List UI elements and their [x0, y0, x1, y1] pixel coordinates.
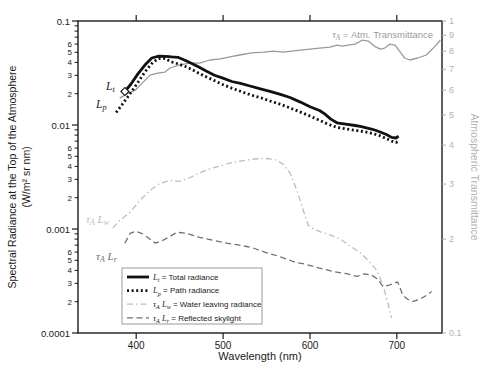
y-right-tick-label: 1 — [449, 16, 454, 26]
y-right-tick-label: 0.1 — [449, 328, 462, 338]
curve-path-radiance — [116, 59, 398, 143]
y-right-axis-title: Atmospheric Transmittance — [469, 113, 481, 240]
y-left-decade-label: 0.01 — [52, 120, 71, 131]
y-left-axis-title: Spectral Radiance at the Top of the Atmo… — [6, 65, 18, 288]
y-left-minor-label: 3 — [68, 71, 73, 80]
y-left-decade-label: 0.001 — [46, 224, 70, 235]
x-tick-label: 400 — [128, 340, 145, 351]
y-left-minor-label: 2 — [68, 90, 73, 99]
y-right-tick-label: 9 — [449, 30, 454, 40]
label-water-leaving: τA Lw — [86, 213, 110, 227]
y-left-decade-label: 0.1 — [57, 16, 70, 27]
y-left-axis-units: (W/m² sr nm) — [20, 146, 32, 207]
y-right-tick-label: 8 — [449, 46, 454, 56]
y-right-tick-label: 5 — [449, 110, 454, 120]
y-right-tick-label: 3 — [449, 179, 454, 189]
spectral-radiance-figure: 4005006007000.1654320.01654320.001654320… — [0, 0, 491, 380]
y-right-tick-label: 4 — [449, 140, 454, 150]
legend-label-reflected-skylight: τA Lr = Reflected skylight — [153, 313, 242, 324]
y-left-minor-label: 4 — [68, 162, 73, 171]
y-left-minor-label: 4 — [68, 266, 73, 275]
y-left-minor-label: 3 — [68, 175, 73, 184]
legend-label-total-radiance: Lt = Total radiance — [152, 272, 219, 283]
label-path-radiance: Lp — [95, 98, 107, 112]
y-left-minor-label: 3 — [68, 279, 73, 288]
label-total-radiance: Lt — [105, 80, 115, 94]
x-axis-title: Wavelength (nm) — [218, 350, 301, 362]
tau-annotation: τA = Atm. Transmittance — [332, 29, 433, 42]
label-reflected-skylight: τA Lr — [96, 250, 118, 264]
chart-canvas: 4005006007000.1654320.01654320.001654320… — [0, 0, 491, 380]
y-right-tick-label: 6 — [449, 85, 454, 95]
x-tick-label: 700 — [388, 340, 405, 351]
y-right-tick-label: 2 — [449, 234, 454, 244]
y-left-minor-label: 5 — [68, 256, 73, 265]
y-left-decade-label: 0.0001 — [41, 328, 70, 339]
y-left-minor-label: 4 — [68, 58, 73, 67]
y-right-tick-label: 7 — [449, 64, 454, 74]
y-left-minor-label: 2 — [68, 194, 73, 203]
legend-label-path-radiance: Lp = Path radiance — [152, 285, 220, 296]
y-left-minor-label: 5 — [68, 48, 73, 57]
curve-atm-transmittance — [120, 40, 441, 98]
y-left-minor-label: 2 — [68, 298, 73, 307]
y-left-minor-label: 5 — [68, 152, 73, 161]
x-tick-label: 600 — [302, 340, 319, 351]
